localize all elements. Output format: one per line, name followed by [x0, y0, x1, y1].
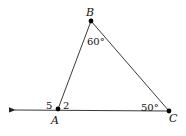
label-c: C [169, 112, 178, 125]
angle-c-label: 50° [141, 102, 159, 113]
side-ab [58, 21, 91, 109]
angle-5-label: 5 [46, 100, 52, 111]
triangle-diagram: B 60° 5 2 A 50° C [0, 0, 186, 136]
angle-2-label: 2 [63, 100, 69, 111]
vertex-a-dot [56, 107, 61, 112]
label-a: A [50, 114, 59, 127]
angle-b-label: 60° [87, 36, 105, 47]
side-bc [91, 21, 169, 111]
label-b: B [85, 6, 94, 19]
vertex-b-dot [89, 19, 94, 24]
